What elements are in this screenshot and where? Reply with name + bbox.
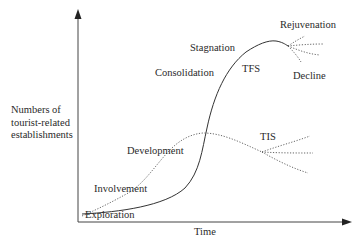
stage-label-rejuvenation: Rejuvenation xyxy=(280,19,336,31)
stage-label-consolidation: Consolidation xyxy=(155,67,214,79)
y-axis-label-line-1: Numbers of xyxy=(11,104,73,117)
x-axis-arrow-icon xyxy=(342,219,352,226)
y-axis-arrow-icon xyxy=(75,9,82,19)
stage-label-involvement: Involvement xyxy=(94,183,147,195)
stage-label-development: Development xyxy=(127,145,184,157)
y-axis-label-line-2: tourist-related xyxy=(11,117,73,130)
stage-label-exploration: Exploration xyxy=(85,209,135,221)
rejuvenation-decline-branches xyxy=(288,36,323,62)
y-axis-label-line-3: establishments xyxy=(11,129,73,142)
y-axis-label: Numbers of tourist-related establishment… xyxy=(11,104,73,142)
x-axis-label: Time xyxy=(194,226,216,238)
stage-label-decline: Decline xyxy=(293,70,326,82)
curve-label-tis: TIS xyxy=(260,131,276,143)
stage-label-stagnation: Stagnation xyxy=(190,42,235,54)
curve-label-tfs: TFS xyxy=(242,63,260,75)
